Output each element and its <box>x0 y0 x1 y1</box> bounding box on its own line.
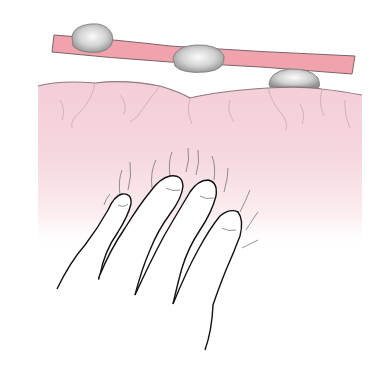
palpation-drawing <box>0 0 387 389</box>
nodule-1 <box>72 24 113 53</box>
illustration: Illustration of fingertips palpating sof… <box>0 0 387 389</box>
nodule-2 <box>173 45 224 72</box>
nodule-3 <box>269 69 320 88</box>
